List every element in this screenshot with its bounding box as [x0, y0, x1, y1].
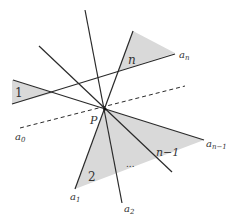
geometry-diagram: 1 n 2 n−1 ... P a0 an an−1 a1 a2	[0, 0, 236, 217]
label-region-2: 2	[88, 170, 96, 184]
label-a2: a2	[124, 203, 135, 216]
label-region-1: 1	[15, 86, 23, 100]
label-an-minus-1: an−1	[206, 138, 227, 151]
region-n-shade	[118, 31, 175, 71]
label-region-n-minus-1: n−1	[156, 146, 179, 159]
label-a1: a1	[70, 191, 80, 204]
label-ellipsis: ...	[126, 159, 135, 169]
point-p	[103, 107, 106, 110]
line-a-n	[12, 54, 175, 104]
label-p: P	[89, 114, 98, 127]
label-a0: a0	[15, 131, 26, 144]
label-an: an	[179, 49, 190, 62]
label-region-n: n	[128, 53, 136, 67]
